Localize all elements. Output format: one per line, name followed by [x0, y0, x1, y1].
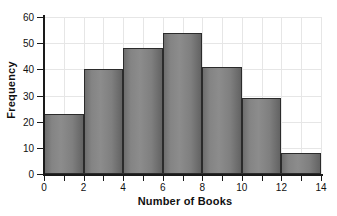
histogram-chart: Frequency 0102030405060 02468101214 Numb… — [0, 0, 337, 216]
x-axis-tick — [242, 176, 243, 181]
y-axis-tick-label: 40 — [0, 64, 34, 75]
x-axis-tick — [163, 176, 164, 181]
x-axis-tick — [281, 176, 282, 181]
plot-area — [44, 17, 321, 174]
y-axis-tick — [37, 17, 43, 18]
histogram-bar — [242, 98, 282, 174]
x-axis-title: Number of Books — [40, 195, 330, 207]
x-axis-tick — [84, 176, 85, 181]
x-axis-tick — [44, 176, 45, 181]
x-axis-tick-label: 10 — [227, 182, 257, 193]
y-axis-tick-label: 50 — [0, 38, 34, 49]
x-axis-tick-label: 12 — [266, 182, 296, 193]
y-axis-tick — [37, 122, 43, 123]
x-axis-tick-label: 14 — [306, 182, 336, 193]
x-axis-tick — [64, 176, 65, 181]
gridline-horizontal — [44, 17, 321, 18]
histogram-bar — [163, 33, 203, 174]
y-axis-tick — [37, 43, 43, 44]
x-axis-tick — [301, 176, 302, 181]
x-axis-tick-label: 6 — [148, 182, 178, 193]
histogram-bar — [281, 153, 321, 174]
x-axis-tick — [222, 176, 223, 181]
y-axis-tick-label: 0 — [0, 169, 34, 180]
y-axis-line — [43, 15, 45, 176]
x-axis-tick-label: 8 — [187, 182, 217, 193]
y-axis-tick — [37, 174, 43, 175]
y-axis-tick — [37, 69, 43, 70]
y-axis-tick-label: 10 — [0, 142, 34, 153]
histogram-bar — [44, 114, 84, 174]
y-axis-tick — [37, 96, 43, 97]
x-axis-tick-label: 4 — [108, 182, 138, 193]
y-axis-tick — [37, 148, 43, 149]
x-axis-tick-label: 2 — [69, 182, 99, 193]
x-axis-tick — [202, 176, 203, 181]
histogram-bar — [123, 48, 163, 174]
histogram-bar — [84, 69, 124, 174]
x-axis-tick-label: 0 — [29, 182, 59, 193]
histogram-bar — [202, 67, 242, 174]
y-axis-tick-label: 30 — [0, 90, 34, 101]
x-axis-tick — [103, 176, 104, 181]
gridline-vertical — [321, 17, 322, 174]
x-axis-tick — [123, 176, 124, 181]
x-axis-tick — [183, 176, 184, 181]
x-axis-tick — [321, 176, 322, 181]
x-axis-tick — [143, 176, 144, 181]
y-axis-tick-label: 20 — [0, 116, 34, 127]
y-axis-tick-label: 60 — [0, 12, 34, 23]
x-axis-tick — [262, 176, 263, 181]
